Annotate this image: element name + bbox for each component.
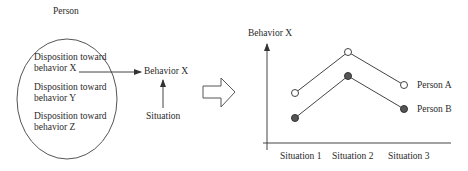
person-a-point-1 bbox=[292, 90, 299, 97]
person-a-point-2 bbox=[345, 49, 352, 56]
disposition-y-line1: Disposition toward bbox=[34, 82, 107, 93]
person-b-point-3 bbox=[401, 106, 408, 113]
person-b-point-2 bbox=[345, 73, 352, 80]
x-tick-situation-2: Situation 2 bbox=[332, 151, 373, 162]
disposition-x-line2: behavior X bbox=[34, 63, 76, 74]
series-label-person-b: Person B bbox=[417, 104, 452, 115]
behavior-x-label: Behavior X bbox=[144, 66, 188, 77]
disposition-y-line2: behavior Y bbox=[34, 93, 76, 104]
person-b-point-1 bbox=[292, 115, 299, 122]
disposition-x-line1: Disposition toward bbox=[34, 52, 107, 63]
person-label: Person bbox=[53, 6, 79, 17]
y-axis-label: Behavior X bbox=[248, 28, 292, 39]
situation-label: Situation bbox=[146, 111, 180, 122]
x-tick-situation-1: Situation 1 bbox=[280, 151, 321, 162]
person-a-point-3 bbox=[401, 82, 408, 89]
series-label-person-a: Person A bbox=[417, 80, 452, 91]
x-tick-situation-3: Situation 3 bbox=[388, 151, 429, 162]
block-arrow-icon bbox=[203, 78, 235, 107]
disposition-z-line1: Disposition toward bbox=[34, 111, 107, 122]
disposition-z-line2: behavior Z bbox=[34, 122, 75, 133]
series-person-b-line bbox=[295, 76, 404, 118]
